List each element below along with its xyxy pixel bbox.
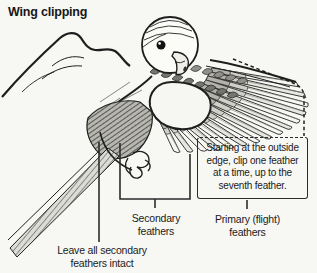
figure-title: Wing clipping (8, 5, 87, 19)
eye-icon (157, 41, 166, 50)
bird-head (142, 17, 198, 75)
label-secondary-feathers: Secondary feathers (112, 212, 200, 237)
wing-clipping-figure: Wing clipping Starting at the outside ed… (0, 0, 317, 273)
thumb (150, 82, 211, 129)
tail-feathers (8, 148, 119, 257)
label-leave-secondary-feathers: Leave all secondary feathers intact (50, 244, 154, 269)
hand-drawing (2, 33, 130, 97)
label-primary-feathers: Primary (flight) feathers (199, 213, 296, 238)
clip-instruction-text: Starting at the outside edge, clip one f… (198, 138, 307, 192)
clip-instruction-callout: Starting at the outside edge, clip one f… (197, 137, 308, 199)
eye-highlight (158, 42, 161, 45)
